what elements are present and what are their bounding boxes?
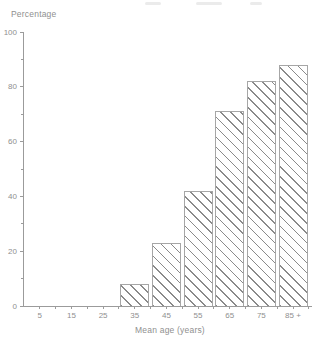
bar-age-85 <box>279 65 308 306</box>
x-axis-tick <box>55 306 56 309</box>
y-axis-major-tick <box>20 306 24 307</box>
y-axis-minor-tick <box>21 278 24 279</box>
x-axis-tick <box>166 306 167 309</box>
y-axis-title: Percentage <box>11 9 56 19</box>
y-tick-label: 100 <box>0 28 17 37</box>
y-axis-major-tick <box>20 251 24 252</box>
scan-artifact <box>196 2 222 5</box>
y-tick-label: 80 <box>0 82 17 91</box>
y-axis-minor-tick <box>21 114 24 115</box>
y-axis-major-tick <box>20 86 24 87</box>
y-tick-label: 20 <box>0 247 17 256</box>
y-axis-major-tick <box>20 196 24 197</box>
x-axis-title: Mean age (years) <box>26 325 314 335</box>
y-axis-major-tick <box>20 141 24 142</box>
y-axis-minor-tick <box>21 223 24 224</box>
bar-age-35 <box>120 284 149 306</box>
bar-age-65 <box>215 111 244 306</box>
x-axis-tick <box>198 306 199 309</box>
y-tick-label: 0 <box>0 302 17 311</box>
y-tick-label: 60 <box>0 137 17 146</box>
x-axis-tick <box>134 306 135 309</box>
x-axis-tick <box>277 306 278 309</box>
x-tick-label: 75 <box>257 311 266 320</box>
x-axis-tick <box>39 306 40 309</box>
x-tick-label: 25 <box>99 311 108 320</box>
x-axis-tick <box>293 306 294 309</box>
y-axis-minor-tick <box>21 169 24 170</box>
x-axis-tick <box>261 306 262 309</box>
x-tick-label: 65 <box>225 311 234 320</box>
x-axis-tick <box>213 306 214 309</box>
scan-artifact <box>145 2 161 5</box>
y-tick-label: 40 <box>0 192 17 201</box>
bar-chart-figure: Percentage 02040608010051525354555657585… <box>0 0 322 342</box>
x-axis-tick <box>103 306 104 309</box>
x-tick-label: 15 <box>67 311 76 320</box>
scan-artifact <box>250 2 262 5</box>
y-axis-minor-tick <box>21 59 24 60</box>
x-axis-tick <box>87 306 88 309</box>
x-axis-tick <box>229 306 230 309</box>
x-axis-tick <box>150 306 151 309</box>
x-tick-label: 85 + <box>285 311 301 320</box>
bar-age-45 <box>152 243 181 306</box>
x-axis-tick <box>118 306 119 309</box>
x-tick-label: 5 <box>38 311 42 320</box>
plot-area: 02040608010051525354555657585 + <box>23 32 312 307</box>
bar-age-55 <box>184 191 213 306</box>
x-tick-label: 35 <box>130 311 139 320</box>
x-tick-label: 45 <box>162 311 171 320</box>
x-axis-tick <box>308 306 309 309</box>
y-axis-major-tick <box>20 32 24 33</box>
bar-age-75 <box>247 81 276 306</box>
x-axis-tick <box>71 306 72 309</box>
x-axis-tick <box>182 306 183 309</box>
x-tick-label: 55 <box>194 311 203 320</box>
x-axis-tick <box>245 306 246 309</box>
